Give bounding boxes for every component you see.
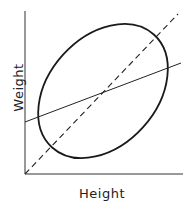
dashed-diagonal-line	[25, 14, 178, 174]
x-axis-label: Height	[62, 186, 142, 201]
distribution-ellipse	[12, 0, 193, 184]
y-axis-label: Weight	[11, 48, 26, 128]
regression-ellipse-diagram	[0, 0, 193, 210]
regression-line	[25, 63, 181, 122]
